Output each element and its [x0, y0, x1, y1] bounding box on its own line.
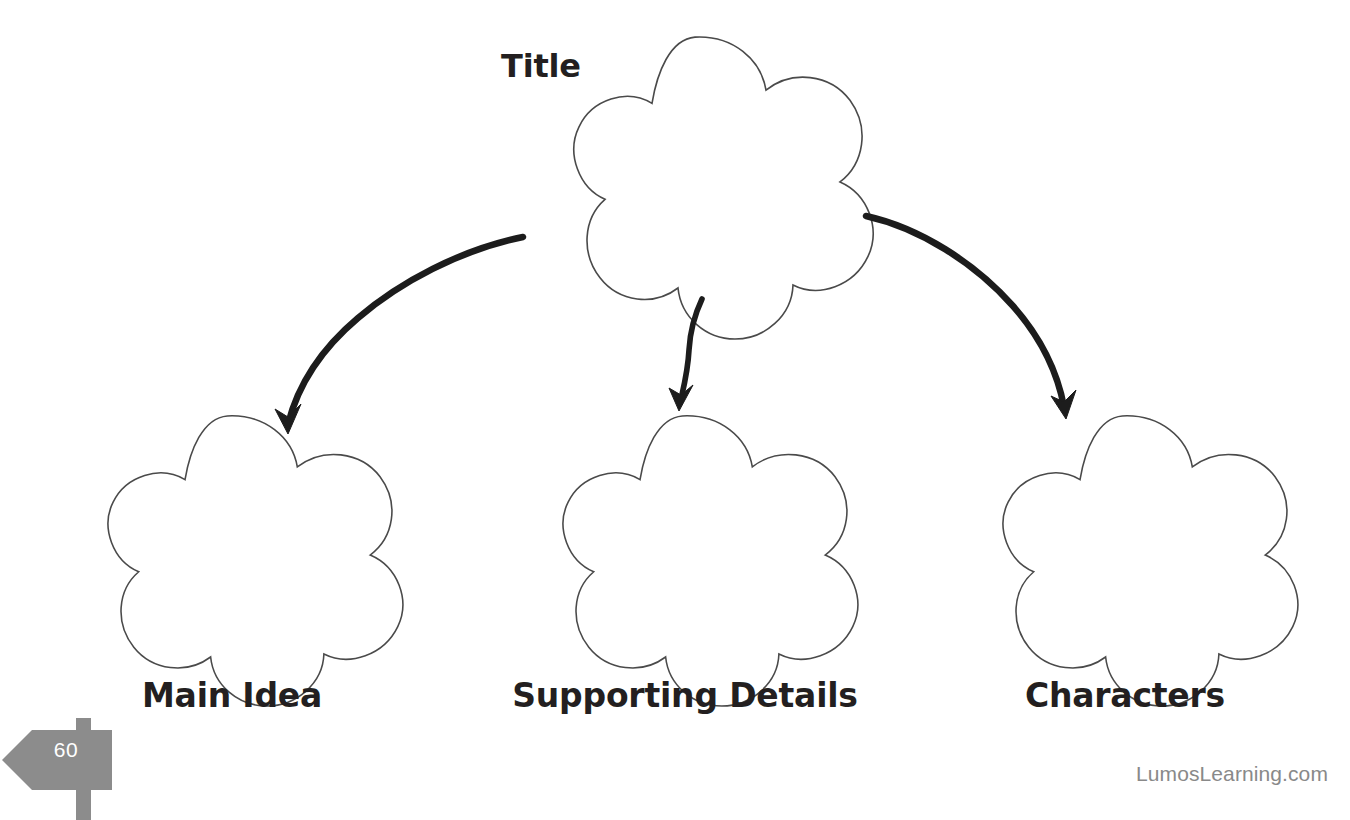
node-main-idea[interactable] — [108, 416, 403, 706]
node-characters[interactable] — [1003, 416, 1298, 706]
arrow-title-to-characters — [866, 216, 1076, 419]
node-label-characters: Characters — [955, 676, 1295, 715]
node-label-title: Title — [451, 47, 631, 85]
arrow-title-to-supporting-details — [669, 299, 702, 411]
page-number: 60 — [36, 738, 96, 762]
node-label-main-idea: Main Idea — [82, 676, 382, 715]
page-number-signpost — [0, 712, 160, 820]
worksheet-page: Graphic Organizer — [0, 0, 1350, 820]
arrow-title-to-main-idea — [275, 237, 523, 434]
node-supporting-details[interactable] — [563, 416, 858, 706]
brand-footer: LumosLearning.com — [1136, 762, 1328, 786]
node-label-supporting-details: Supporting Details — [495, 676, 875, 715]
